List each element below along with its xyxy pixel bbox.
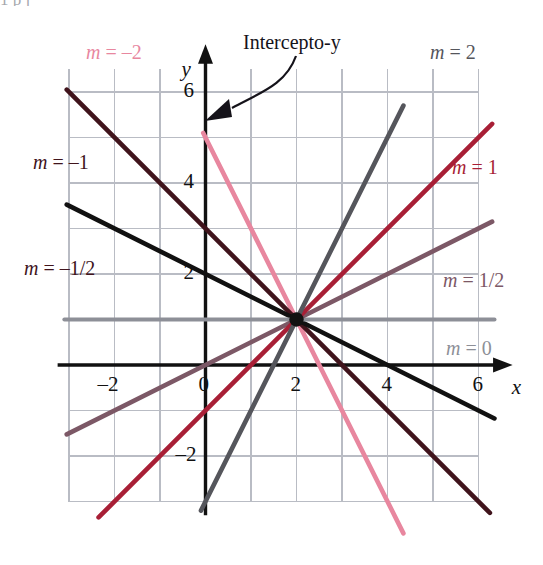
x-tick-0: 0 xyxy=(199,374,210,395)
x-tick--2: –2 xyxy=(98,374,119,395)
slope-label-m-1-2: m = 1/2 xyxy=(443,270,504,290)
slope-label-m-2: m = 2 xyxy=(430,42,476,62)
slope-label-m-1: m = 1 xyxy=(452,157,498,177)
x-tick-2: 2 xyxy=(291,374,302,395)
common-point xyxy=(289,312,303,326)
figure-canvas: 1 p j m = –2m = –1m = –1/2m = 0m = 1/2m … xyxy=(0,0,543,565)
slope-label-m-1-2: m = –1/2 xyxy=(24,258,95,278)
grid-lines xyxy=(69,69,479,501)
slope-label-m-2: m = –2 xyxy=(86,42,142,62)
slope-label-m-0: m = 0 xyxy=(446,338,492,358)
x-axis-label: x xyxy=(512,377,521,398)
x-tick-6: 6 xyxy=(473,374,484,395)
y-tick--2: –2 xyxy=(176,444,197,465)
slope-lines xyxy=(64,90,494,534)
y-tick-2: 2 xyxy=(184,262,195,283)
x-tick-4: 4 xyxy=(382,374,393,395)
intercept-annotation: Intercepto-y xyxy=(243,32,341,52)
slope-label-m-1: m = –1 xyxy=(33,152,89,172)
y-axis-label: y xyxy=(182,59,191,80)
y-tick-4: 4 xyxy=(184,171,195,192)
y-tick-6: 6 xyxy=(184,80,195,101)
